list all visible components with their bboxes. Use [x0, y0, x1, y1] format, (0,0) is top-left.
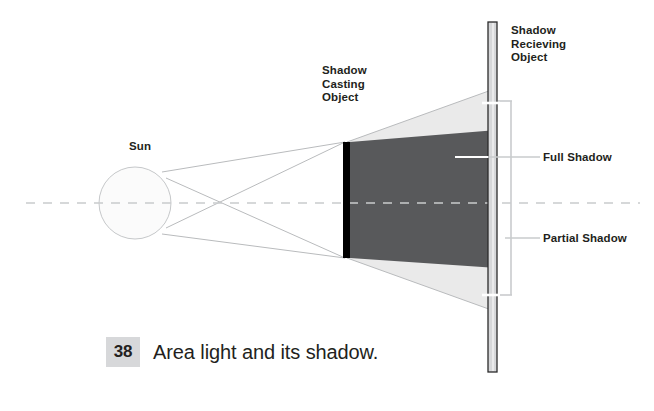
ray-sun-bottom-to-object-top: [166, 142, 345, 228]
label-sun: Sun: [129, 140, 151, 154]
label-full-shadow: Full Shadow: [543, 151, 612, 165]
label-shadow-receiving-object: Shadow Recieving Object: [511, 24, 566, 65]
partial-shadow-bracket: [498, 101, 512, 295]
figure-number-badge: 38: [106, 337, 140, 367]
umbra-region: [350, 130, 497, 268]
label-partial-shadow: Partial Shadow: [543, 232, 627, 246]
shadow-casting-object-bar: [343, 142, 350, 258]
label-shadow-casting-object: Shadow Casting Object: [322, 64, 367, 105]
figure-caption-text: Area light and its shadow.: [153, 341, 378, 364]
ray-sun-top-to-object-top: [162, 142, 345, 172]
figure-caption: 38 Area light and its shadow.: [106, 337, 378, 367]
figure-area-light-shadow: Sun Shadow Casting Object Shadow Recievi…: [0, 0, 654, 411]
shadow-receiving-object-bar: [488, 22, 497, 372]
